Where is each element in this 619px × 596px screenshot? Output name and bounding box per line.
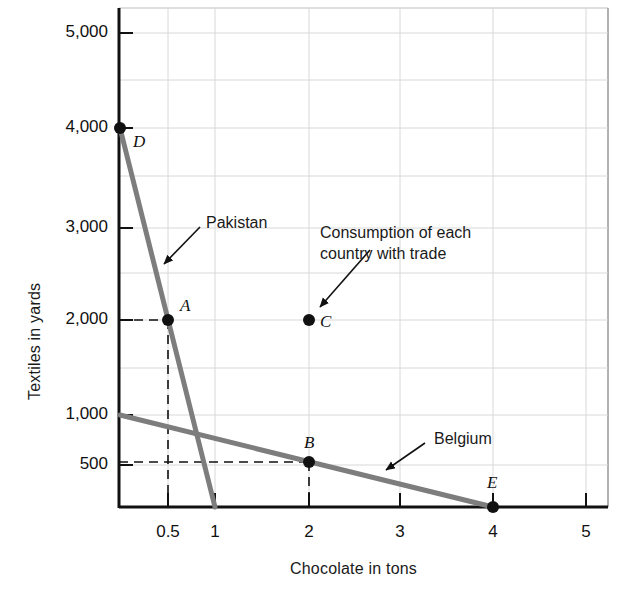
x-tick-label-1: 1 (190, 522, 240, 542)
guide-lines (119, 320, 309, 507)
point-label-c: C (320, 312, 331, 332)
data-point-b (303, 456, 315, 468)
point-label-e: E (487, 473, 497, 493)
chart-canvas (0, 0, 619, 596)
pakistan-arrow (164, 227, 200, 264)
y-axis-ticks (119, 33, 133, 465)
x-tick-label-3: 3 (375, 522, 425, 542)
belgium-annotation: Belgium (434, 428, 492, 449)
x-tick-label-0-5: 0.5 (138, 522, 198, 542)
y-tick-label-1000: 1,000 (20, 404, 108, 424)
pakistan-annotation: Pakistan (206, 212, 267, 233)
x-axis-ticks (168, 493, 586, 507)
data-point-c (303, 314, 315, 326)
point-label-b: B (304, 433, 314, 453)
x-tick-label-5: 5 (561, 522, 611, 542)
consumption-annotation-line2: country with trade (320, 243, 446, 264)
x-tick-label-2: 2 (284, 522, 334, 542)
y-tick-label-4000: 4,000 (20, 117, 108, 137)
point-label-a: A (180, 296, 190, 316)
y-tick-label-5000: 5,000 (20, 22, 108, 42)
chart-figure: Textiles in yards Chocolate in tons 5,00… (0, 0, 619, 596)
x-axis-title: Chocolate in tons (290, 560, 417, 578)
y-tick-label-500: 500 (20, 454, 108, 474)
data-point-a (162, 314, 174, 326)
data-point-d (114, 122, 126, 134)
point-label-d: D (133, 132, 145, 152)
y-tick-label-2000: 2,000 (20, 309, 108, 329)
y-axis-title: Textiles in yards (26, 283, 44, 400)
data-point-e (487, 501, 499, 513)
x-tick-label-4: 4 (468, 522, 518, 542)
consumption-annotation-line1: Consumption of each (320, 222, 471, 243)
y-tick-label-3000: 3,000 (20, 217, 108, 237)
belgium-arrow (386, 443, 425, 470)
